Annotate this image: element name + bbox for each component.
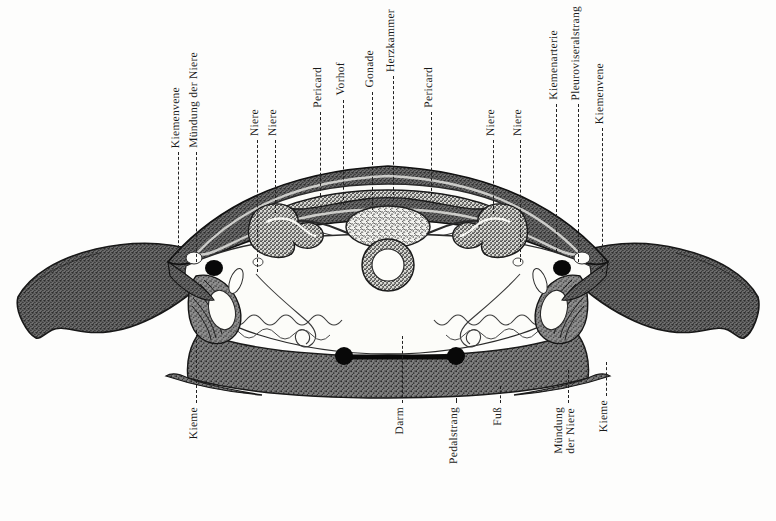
leader-line [257, 140, 258, 272]
label-kieme: Kieme [189, 407, 201, 439]
label-herzkammer: Herzkammer [386, 9, 398, 72]
label-darm: Darm [395, 407, 407, 434]
label-niere: Niere [250, 109, 262, 136]
leader-line [602, 128, 603, 272]
label-pleuroviseralstrang: Pleuroviseralstrang [571, 6, 583, 100]
label-kiemenvene: Kiemenvene [171, 87, 183, 148]
pleuroviseralstrang-left [253, 258, 263, 266]
label-mündung-der-niere: Mündung der Niere [189, 52, 201, 148]
leader-line [196, 330, 197, 403]
pleuroviseralstrang-right [513, 258, 523, 266]
leader-line [275, 140, 276, 213]
label-fuß: Fuß [493, 407, 505, 426]
label-kiemenvene: Kiemenvene [595, 63, 607, 124]
pedal-ganglion-left [335, 347, 353, 365]
label-pedalstrang: Pedalstrang [449, 407, 461, 464]
leader-line [520, 140, 521, 262]
leader-line [343, 100, 344, 205]
leader-line [393, 76, 394, 200]
leader-line [456, 398, 457, 403]
label-vorhof: Vorhof [336, 62, 348, 96]
leader-line [431, 112, 432, 196]
kiemenvene-right [553, 260, 571, 276]
leader-line [606, 362, 607, 396]
label-gonade: Gonade [365, 50, 377, 88]
anatomical-figure: KiemenveneMündung der NiereNiereNierePer… [0, 0, 776, 521]
leader-line [402, 336, 403, 403]
cross-section-drawing [0, 0, 776, 521]
label-muendung-der-niere: Mündungder Niere [554, 407, 577, 454]
label-niere: Niere [513, 109, 525, 136]
kiemenvene-left [205, 260, 223, 276]
leader-line [578, 104, 579, 262]
pedal-ganglion-right [447, 347, 465, 365]
label-line: der Niere [566, 407, 578, 454]
muendung-der-niere-right [574, 252, 590, 264]
leader-line [372, 92, 373, 210]
leader-line [178, 152, 179, 253]
leader-line [320, 112, 321, 196]
leader-line [568, 370, 569, 403]
leader-line [500, 386, 501, 403]
leader-line [493, 140, 494, 214]
label-kieme: Kieme [599, 400, 611, 432]
label-kiemenarterie: Kiemenarterie [549, 30, 561, 100]
label-niere: Niere [268, 109, 280, 136]
leader-line [556, 104, 557, 252]
label-pericard: Pericard [313, 67, 325, 108]
label-line: Mündung [554, 407, 566, 454]
darm-lumen [372, 249, 404, 281]
label-niere: Niere [486, 109, 498, 136]
leader-line [196, 152, 197, 262]
muendung-der-niere-left [186, 252, 202, 264]
label-pericard: Pericard [424, 67, 436, 108]
